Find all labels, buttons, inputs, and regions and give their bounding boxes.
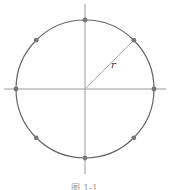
point-180 <box>14 87 19 92</box>
point-315 <box>131 135 136 140</box>
radius-label: r <box>111 59 117 70</box>
point-90 <box>83 18 88 23</box>
point-0 <box>152 87 157 92</box>
radius-line <box>85 40 134 89</box>
point-45 <box>131 38 136 43</box>
point-135 <box>34 38 39 43</box>
figure-caption: 图 1-1 <box>0 183 169 190</box>
point-270 <box>83 156 88 161</box>
point-225 <box>34 135 39 140</box>
circle-diagram: r <box>0 0 169 190</box>
